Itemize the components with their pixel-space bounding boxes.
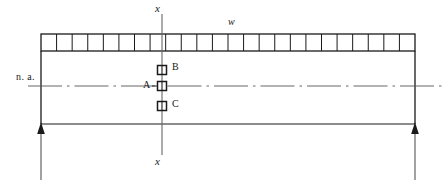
neutral-axis-label: n. a. xyxy=(16,72,35,82)
support-reaction-left xyxy=(37,122,45,180)
section-label-top: x xyxy=(155,3,160,14)
stress-point-markers xyxy=(158,66,167,111)
point-label-c: C xyxy=(172,99,179,109)
point-label-b: B xyxy=(172,62,179,72)
support-reaction-right xyxy=(411,122,419,180)
beam-diagram: x x w n. a. A B C xyxy=(0,0,444,182)
beam-body xyxy=(41,51,415,124)
beam-diagram-canvas xyxy=(0,0,444,182)
section-label-bottom: x xyxy=(155,156,160,167)
load-label: w xyxy=(228,17,235,27)
distributed-load-strip xyxy=(41,34,415,51)
point-label-a: A xyxy=(143,80,150,90)
